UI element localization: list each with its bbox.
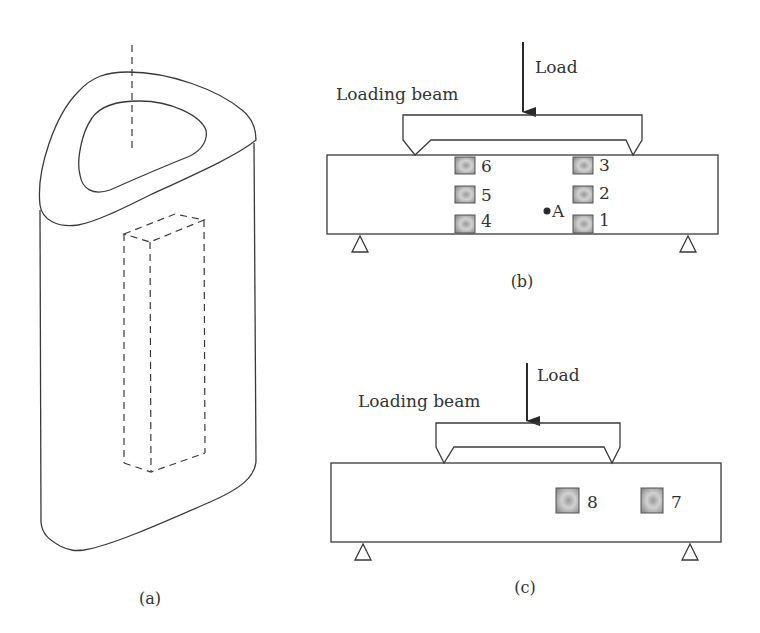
panel-c-caption: (c) [514,578,535,597]
panel-a-caption: (a) [139,589,161,608]
column-left-wall [40,210,41,522]
panel-b-caption: (b) [511,272,534,291]
load-label: Load [535,57,578,77]
loading-beam [436,423,620,463]
sensor-2: 2 [573,183,610,203]
specimen-box-dashed [124,214,205,472]
svg-text:5: 5 [481,185,492,205]
support-right-triangle-icon [682,544,698,560]
panel-c: Load Loading beam 8 7 (c) [331,363,721,597]
panel-b: Load Loading beam 6 5 4 3 2 1 [327,42,718,291]
svg-text:8: 8 [587,492,598,512]
figure-canvas: (a) Load Loading beam 6 5 4 3 2 [0,0,760,633]
loading-beam [403,115,642,155]
support-left-triangle-icon [355,544,371,560]
svg-text:7: 7 [671,492,682,512]
column-bottom-contour [41,462,256,551]
svg-text:4: 4 [481,211,492,231]
loading-beam-label: Loading beam [336,84,458,104]
support-left-triangle-icon [352,236,368,252]
sensor-1: 1 [573,210,610,233]
sensor-4: 4 [455,211,492,233]
column-outer-top-contour [39,72,256,226]
loading-beam-label: Loading beam [358,391,480,411]
load-label: Load [537,365,580,385]
sensor-7: 7 [641,488,682,513]
svg-text:2: 2 [599,183,610,203]
sensor-6: 6 [455,156,492,176]
svg-text:3: 3 [599,155,610,175]
specimen-beam [327,155,718,234]
support-right-triangle-icon [680,236,696,252]
point-a-label: A [551,201,565,221]
panel-a: (a) [39,45,256,608]
sensor-8: 8 [556,488,598,513]
sensor-3: 3 [573,155,610,175]
svg-text:6: 6 [481,156,492,176]
svg-text:1: 1 [599,210,610,230]
point-a-marker [544,208,551,215]
column-right-wall [254,143,256,462]
sensor-5: 5 [455,185,492,205]
